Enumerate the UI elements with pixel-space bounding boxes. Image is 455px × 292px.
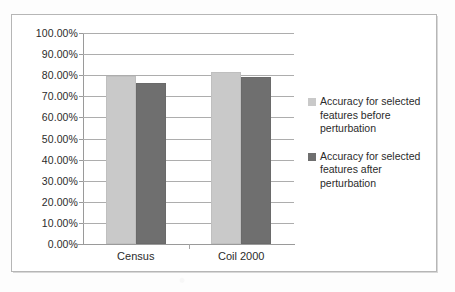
y-axis-tick-label: 100.00% bbox=[20, 28, 78, 39]
y-axis-tick-label: 60.00% bbox=[20, 112, 78, 123]
y-axis-tick bbox=[79, 181, 83, 182]
x-axis-line bbox=[75, 244, 295, 245]
y-axis-tick bbox=[79, 223, 83, 224]
x-axis-category-label: Coil 2000 bbox=[189, 251, 295, 262]
y-axis-tick bbox=[79, 202, 83, 203]
y-axis-tick bbox=[79, 160, 83, 161]
gridline bbox=[83, 33, 294, 34]
bar-after bbox=[136, 83, 166, 244]
y-axis-tick-label: 0.00% bbox=[20, 239, 78, 250]
y-axis-tick-label: 70.00% bbox=[20, 91, 78, 102]
legend-item[interactable]: Accuracy for selected features after per… bbox=[308, 150, 440, 191]
y-axis-tick-label: 20.00% bbox=[20, 197, 78, 208]
y-axis-tick-labels: 100.00%90.00%80.00%70.00%60.00%50.00%40.… bbox=[17, 33, 78, 244]
legend-swatch-before-icon bbox=[308, 98, 316, 106]
y-axis-tick bbox=[79, 54, 83, 55]
legend-swatch-after-icon bbox=[308, 153, 316, 161]
y-axis-tick-label: 80.00% bbox=[20, 70, 78, 81]
y-axis-tick bbox=[79, 75, 83, 76]
gridline bbox=[83, 54, 294, 55]
plot-area bbox=[83, 33, 294, 244]
bar-before bbox=[106, 76, 136, 244]
bar-before bbox=[211, 72, 241, 244]
x-axis-separator-tick bbox=[189, 244, 190, 249]
y-axis-tick bbox=[79, 33, 83, 34]
y-axis-tick-label: 30.00% bbox=[20, 176, 78, 187]
y-axis-tick-label: 40.00% bbox=[20, 155, 78, 166]
y-axis-tick bbox=[79, 117, 83, 118]
y-axis-tick bbox=[79, 96, 83, 97]
chart-frame: 100.00%90.00%80.00%70.00%60.00%50.00%40.… bbox=[11, 14, 437, 272]
y-axis-tick bbox=[79, 139, 83, 140]
legend-item[interactable]: Accuracy for selected features before pe… bbox=[308, 95, 440, 136]
bar-after bbox=[241, 77, 271, 244]
x-axis-category-label: Census bbox=[83, 251, 189, 262]
y-axis-tick-label: 50.00% bbox=[20, 134, 78, 145]
legend-label-after: Accuracy for selected features after per… bbox=[320, 150, 438, 191]
y-axis-tick-label: 10.00% bbox=[20, 218, 78, 229]
chart-legend: Accuracy for selected features before pe… bbox=[308, 95, 440, 204]
legend-label-before: Accuracy for selected features before pe… bbox=[320, 95, 438, 136]
y-axis-tick-label: 90.00% bbox=[20, 49, 78, 60]
